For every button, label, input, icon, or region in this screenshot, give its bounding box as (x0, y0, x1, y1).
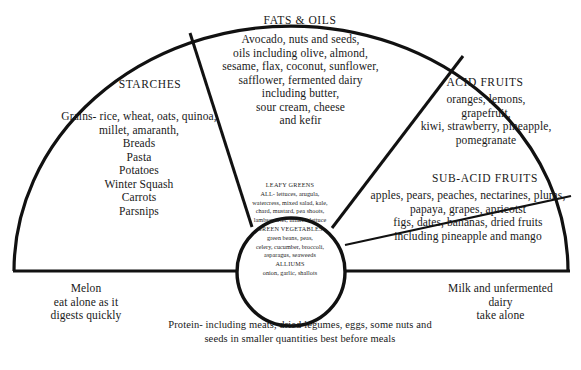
sector-body-fats-and-oils: Avocado, nuts and seeds, oils including … (198, 33, 403, 128)
sector-body-sub-acid-fruits: apples, pears, peaches, nectarines, plum… (355, 189, 581, 243)
food-combining-diagram: STARCHES Grains- rice, wheat, oats, quin… (0, 0, 581, 370)
center-body-alliums: onion, garlic, shallots (236, 269, 344, 278)
note-melon: Melon eat alone as it digests quickly (12, 282, 160, 323)
center-body-green-vegetables: green beans, peas, celery, cucumber, bro… (236, 234, 344, 260)
center-title-green-vegetables: GREEN VEGETABLES (236, 225, 344, 234)
sector-body-acid-fruits: oranges, lemons, grapefruit, kiwi, straw… (396, 93, 576, 147)
center-title-leafy-greens: LEAFY GREENS (236, 181, 344, 190)
sector-title-acid-fruits: ACID FRUITS (410, 76, 560, 90)
center-circle-text: LEAFY GREENS ALL- lettuces, arugula, wat… (236, 181, 344, 278)
center-body-leafy-greens: ALL- lettuces, arugula, watercress, mixe… (236, 190, 344, 225)
note-milk-and-unfermented-dairy: Milk and unfermented dairy take alone (418, 282, 581, 323)
note-protein: Protein- including meats, dried legumes,… (140, 318, 460, 346)
center-title-alliums: ALLIUMS (236, 260, 344, 269)
sector-title-fats-and-oils: FATS & OILS (215, 14, 385, 28)
sector-title-sub-acid-fruits: SUB-ACID FRUITS (405, 172, 565, 186)
